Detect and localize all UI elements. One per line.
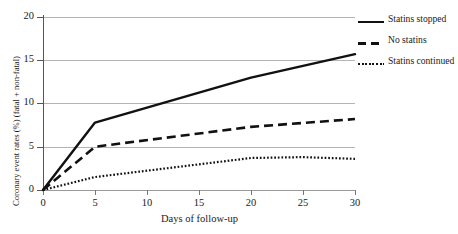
legend-item-no-statins: No statins xyxy=(358,33,458,54)
legend: Statins stopped No statins Statins conti… xyxy=(358,12,458,75)
legend-label-statins-continued: Statins continued xyxy=(388,55,454,66)
legend-item-statins-stopped: Statins stopped xyxy=(358,12,458,33)
legend-swatch-solid-icon xyxy=(358,21,384,23)
series-line-statins-continued xyxy=(43,157,355,190)
legend-item-statins-continued: Statins continued xyxy=(358,54,458,75)
chart-container: Coronary event rates (%) (fatal + non-fa… xyxy=(0,0,458,234)
legend-label-no-statins: No statins xyxy=(388,34,427,45)
legend-label-statins-stopped: Statins stopped xyxy=(388,13,446,24)
legend-swatch-dotted-icon xyxy=(358,63,384,65)
legend-swatch-dashed-icon xyxy=(358,42,384,45)
